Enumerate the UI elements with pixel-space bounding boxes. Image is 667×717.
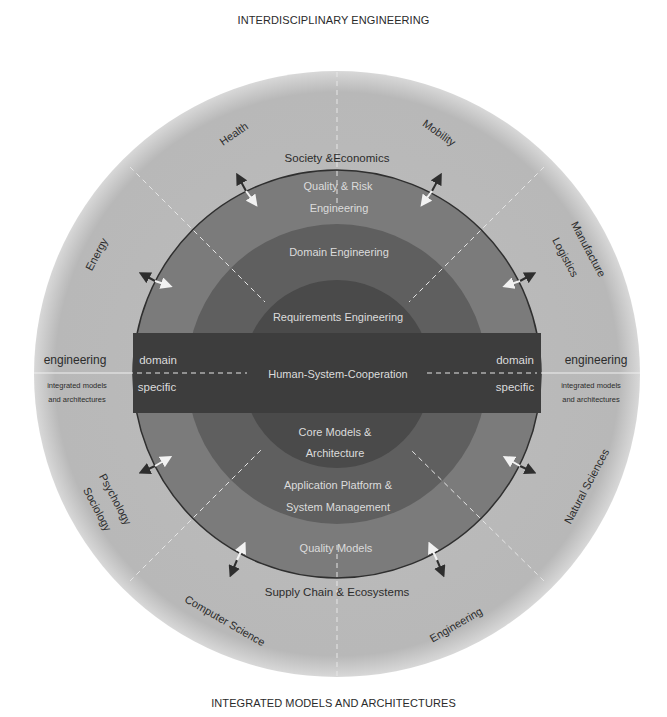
supply-chain-label: Supply Chain & Ecosystems bbox=[265, 586, 410, 598]
right-engineering-label: engineering bbox=[565, 353, 628, 367]
bottom-title: INTEGRATED MODELS AND ARCHITECTURES bbox=[0, 697, 667, 709]
quality-risk-label-2: Engineering bbox=[310, 202, 369, 214]
society-economics-label: Society &Economics bbox=[285, 152, 390, 164]
band-left-domain: domain bbox=[139, 354, 177, 366]
core-models-label-2: Architecture bbox=[306, 447, 365, 459]
right-integrated-label-1: integrated models bbox=[561, 381, 621, 390]
human-system-cooperation-label: Human-System-Cooperation bbox=[268, 368, 407, 380]
right-integrated-label-2: and architectures bbox=[562, 395, 620, 404]
band-left-specific: specific bbox=[138, 381, 177, 393]
app-platform-label-1: Application Platform & bbox=[284, 479, 393, 491]
left-integrated-label-1: integrated models bbox=[47, 381, 107, 390]
domain-engineering-label: Domain Engineering bbox=[289, 246, 389, 258]
left-engineering-label: engineering bbox=[44, 353, 107, 367]
app-platform-label-2: System Management bbox=[286, 501, 390, 513]
band-right-domain: domain bbox=[496, 354, 534, 366]
requirements-engineering-label: Requirements Engineering bbox=[273, 311, 403, 323]
quality-risk-label-1: Quality & Risk bbox=[303, 180, 373, 192]
concentric-diagram: Health Mobility Energy Manufacture Logis… bbox=[0, 0, 667, 717]
core-models-label-1: Core Models & bbox=[299, 426, 372, 438]
quality-models-label: Quality Models bbox=[300, 542, 373, 554]
band-right-specific: specific bbox=[496, 381, 535, 393]
left-integrated-label-2: and architectures bbox=[48, 395, 106, 404]
